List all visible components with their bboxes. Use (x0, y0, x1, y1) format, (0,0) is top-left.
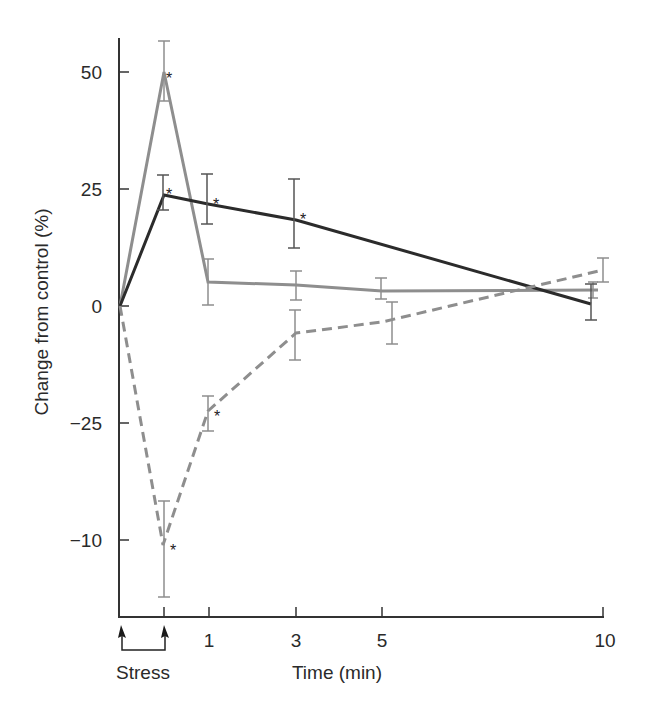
y-tick-label: 50 (81, 62, 102, 83)
y-axis-title: Change from control (%) (31, 209, 52, 416)
x-tick-label: 5 (377, 630, 388, 651)
line-chart: 50 25 0 −25 −10 Change from control (%) … (0, 0, 645, 715)
y-tick-label: 0 (91, 296, 102, 317)
y-tick-label: −10 (70, 530, 102, 551)
series-grey-solid (120, 41, 598, 306)
series-black-solid (120, 174, 597, 320)
svg-text:*: * (166, 186, 172, 203)
svg-text:*: * (214, 408, 220, 425)
svg-text:*: * (170, 542, 176, 559)
x-tick-label: 10 (594, 630, 615, 651)
svg-text:*: * (300, 211, 306, 228)
significance-markers: * * * * * * (166, 70, 306, 559)
x-tick-label: 3 (291, 630, 302, 651)
y-tick-label: 25 (81, 179, 102, 200)
svg-text:*: * (213, 196, 219, 213)
y-tick-labels: 50 25 0 −25 −10 (70, 62, 102, 551)
stress-bracket (118, 625, 169, 650)
series-grey-dashed (120, 258, 609, 597)
x-tick-labels: 1 3 5 10 (204, 630, 616, 651)
x-tick-label: 1 (204, 630, 215, 651)
error-bars (158, 41, 598, 305)
error-bars (158, 258, 609, 597)
y-tick-label: −25 (70, 413, 102, 434)
stress-label: Stress (116, 662, 170, 683)
svg-text:*: * (166, 70, 172, 87)
error-bars (157, 174, 597, 320)
x-axis-title: Time (min) (292, 662, 382, 683)
x-axis (119, 607, 604, 617)
